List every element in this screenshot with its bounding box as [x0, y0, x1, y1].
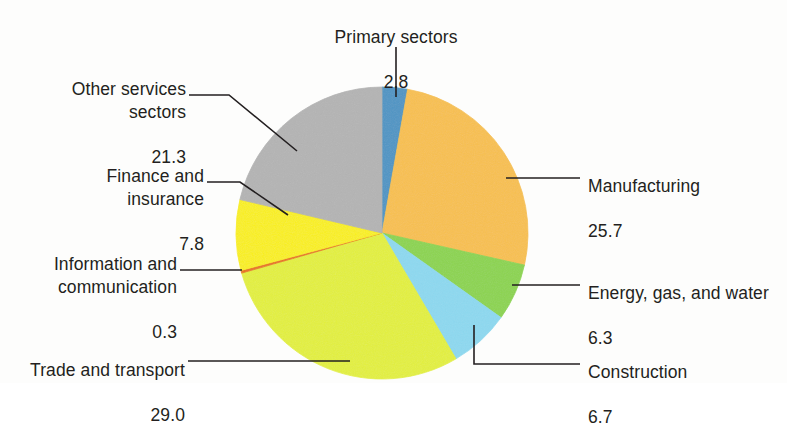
callout-other-services-label: Other services sectors: [6, 78, 186, 123]
callout-primary-sectors: Primary sectors 2.8: [296, 4, 496, 116]
callout-finance-label: Finance and insurance: [6, 165, 204, 210]
callout-trade-value: 29.0: [2, 404, 185, 426]
callout-trade: Trade and transport 29.0: [2, 337, 185, 427]
callout-manufacturing-value: 25.7: [588, 220, 784, 242]
callout-construction-label: Construction: [588, 361, 784, 383]
callout-manufacturing: Manufacturing 25.7: [588, 153, 784, 265]
callout-construction-value: 6.7: [588, 406, 784, 427]
callout-construction: Construction 6.7: [588, 339, 784, 427]
callout-information-label: Information and communication: [4, 253, 177, 298]
callout-energy-label: Energy, gas, and water: [588, 282, 787, 304]
callout-manufacturing-label: Manufacturing: [588, 175, 784, 197]
pie-slices-group: [236, 87, 528, 379]
callout-trade-label: Trade and transport: [2, 359, 185, 381]
callout-primary-sectors-label: Primary sectors: [296, 26, 496, 48]
callout-primary-sectors-value: 2.8: [296, 71, 496, 93]
